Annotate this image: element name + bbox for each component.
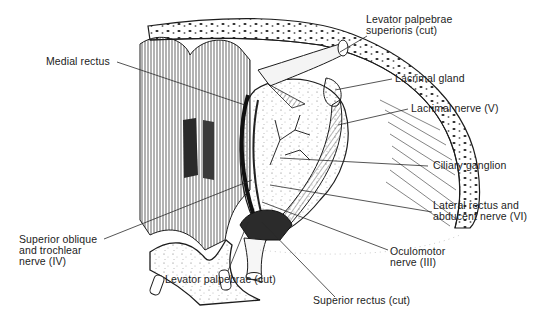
label-oculomotor-nerve: Oculomotor nerve (III) [390,246,445,268]
label-ciliary-ganglion: Ciliary ganglion [433,160,506,171]
label-lacrimal-gland: Lacrimal gland [395,73,465,84]
orbital-apex [240,210,292,282]
label-superior-rectus-cut: Superior rectus (cut) [313,295,410,306]
orbit-anatomy-diagram: Levator palpebrae superioris (cut) Media… [0,0,545,319]
label-levator-palpebrae-cut: Levator palpebrae (cut) [165,274,276,285]
label-levator-palpebrae-superioris: Levator palpebrae superioris (cut) [366,14,452,36]
label-lateral-rectus-abducent-nerve: Lateral rectus and abducent nerve (VI) [433,200,527,222]
label-superior-oblique-trochlear: Superior oblique and trochlear nerve (IV… [19,234,97,267]
label-medial-rectus: Medial rectus [46,56,110,67]
label-lacrimal-nerve: Lacrimal nerve (V) [411,103,499,114]
